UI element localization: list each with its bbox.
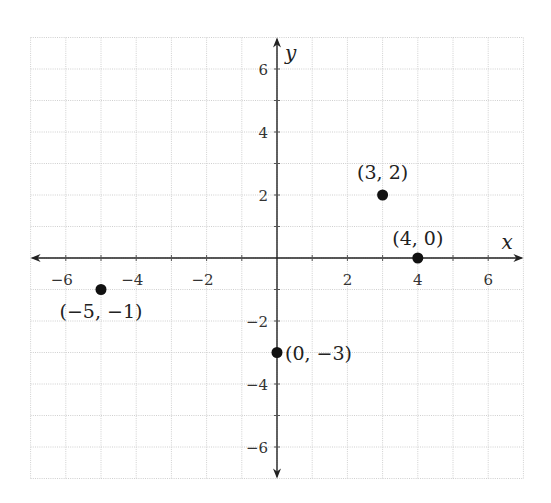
y-tick-label: 6 [258,61,268,79]
y-tick-label: −4 [246,376,268,394]
axes: xy [31,38,524,479]
point-label: (0, −3) [285,342,352,364]
x-tick-label: −6 [51,271,73,289]
point-label: (3, 2) [357,161,408,183]
data-points: (3, 2)(4, 0)(−5, −1)(0, −3) [60,161,444,364]
y-tick-label: −6 [246,439,268,457]
x-axis-label: x [501,230,512,254]
point-label: (−5, −1) [60,300,143,322]
x-tick-label: 4 [413,271,423,289]
data-point [412,253,423,264]
x-tick-label: −2 [192,271,214,289]
coordinate-plane: xy −6−4−2246642−2−4−6 (3, 2)(4, 0)(−5, −… [0,0,551,503]
tick-labels: −6−4−2246642−2−4−6 [51,61,493,457]
y-tick-label: −2 [246,313,268,331]
data-point [272,347,283,358]
y-axis-label: y [284,41,297,65]
data-point [96,284,107,295]
y-tick-label: 4 [258,124,268,142]
y-tick-label: 2 [258,187,268,205]
data-point [377,190,388,201]
x-tick-label: 2 [343,271,353,289]
point-label: (4, 0) [392,227,443,249]
x-tick-label: −4 [121,271,143,289]
x-tick-label: 6 [483,271,493,289]
